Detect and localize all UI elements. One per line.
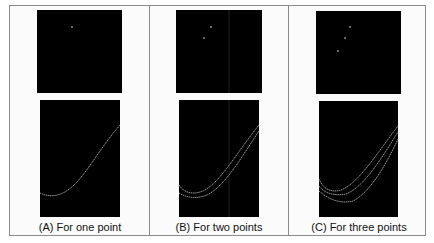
panel-a-top-view bbox=[37, 10, 122, 93]
panel-c-points bbox=[316, 11, 401, 94]
panel-b-top-view bbox=[176, 10, 262, 93]
panel-a-points bbox=[37, 10, 122, 93]
panel-b-curves bbox=[179, 100, 259, 217]
panel-c-curves bbox=[319, 101, 398, 217]
trajectory-curve bbox=[319, 126, 398, 191]
trajectory-curve bbox=[319, 139, 398, 202]
panel-b-points bbox=[176, 10, 262, 93]
panel-c-top-view bbox=[316, 11, 401, 94]
trajectory-curve bbox=[319, 132, 398, 195]
point-marker bbox=[337, 50, 339, 52]
panel-divider bbox=[149, 5, 150, 236]
point-marker bbox=[344, 37, 346, 39]
panel-a-caption: (A) For one point bbox=[24, 221, 136, 233]
panel-divider bbox=[288, 5, 289, 236]
panel-c-bottom-view bbox=[319, 101, 398, 217]
panel-a-curves bbox=[40, 100, 120, 217]
point-marker bbox=[203, 37, 205, 39]
trajectory-curve bbox=[179, 125, 259, 193]
trajectory-curve bbox=[179, 131, 259, 197]
trajectory-curve bbox=[40, 125, 120, 196]
panel-b-caption: (B) For two points bbox=[162, 221, 276, 233]
point-marker bbox=[71, 26, 73, 28]
point-marker bbox=[210, 26, 212, 28]
panel-c-caption: (C) For three points bbox=[298, 221, 420, 233]
point-marker bbox=[349, 26, 351, 28]
panel-a-bottom-view bbox=[40, 100, 120, 217]
panel-b-bottom-view bbox=[179, 100, 259, 217]
